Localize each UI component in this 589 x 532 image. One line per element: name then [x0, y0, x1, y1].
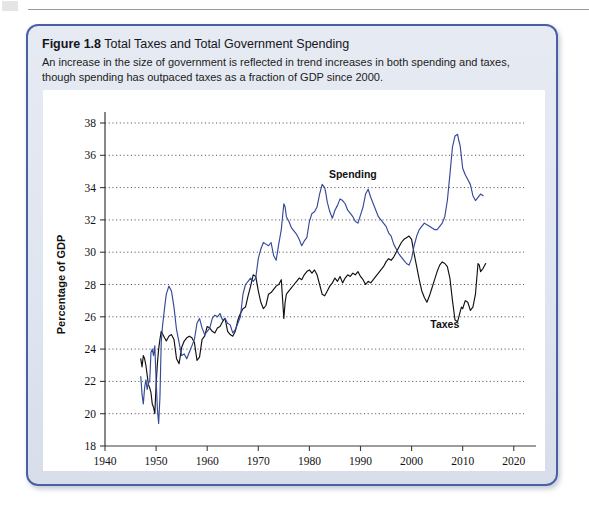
svg-text:28: 28 [85, 279, 97, 291]
figure-title: Figure 1.8 Total Taxes and Total Governm… [42, 36, 542, 52]
svg-text:18: 18 [85, 440, 97, 452]
svg-text:1990: 1990 [349, 455, 372, 467]
svg-text:2020: 2020 [502, 455, 525, 467]
grid-lines [105, 123, 524, 414]
svg-text:30: 30 [85, 246, 97, 258]
svg-text:2000: 2000 [400, 455, 423, 467]
figure-caption-text: An increase in the size of government is… [42, 55, 542, 84]
series-annotations: SpendingTaxes [329, 168, 460, 330]
svg-text:1940: 1940 [94, 455, 117, 467]
y-axis-ticks: 1820222426283032343638 [85, 117, 106, 452]
figure-number: Figure 1.8 [42, 37, 101, 51]
chart-panel: 1820222426283032343638 19401950196019701… [43, 90, 545, 471]
figure-title-text: Total Taxes and Total Government Spendin… [104, 37, 349, 51]
svg-text:36: 36 [85, 149, 97, 161]
figure-caption-block: Figure 1.8 Total Taxes and Total Governm… [42, 36, 542, 84]
svg-text:1970: 1970 [247, 455, 270, 467]
svg-text:2010: 2010 [451, 455, 474, 467]
page-header-rule [28, 9, 589, 10]
x-axis-ticks: 194019501960197019801990200020102020 [94, 446, 526, 467]
spending-series-line [141, 134, 483, 423]
svg-text:22: 22 [85, 375, 97, 387]
svg-text:Taxes: Taxes [430, 318, 459, 330]
svg-text:Spending: Spending [329, 168, 377, 180]
svg-text:26: 26 [85, 311, 97, 323]
svg-text:20: 20 [85, 408, 97, 420]
figure-card: Figure 1.8 Total Taxes and Total Governm… [26, 24, 558, 486]
y-axis-title: Percentage of GDP [55, 235, 67, 335]
svg-text:38: 38 [85, 117, 97, 129]
page-edge-artifact [2, 1, 18, 11]
svg-text:1950: 1950 [145, 455, 168, 467]
svg-text:1980: 1980 [298, 455, 321, 467]
svg-text:34: 34 [85, 182, 97, 194]
svg-text:1960: 1960 [196, 455, 219, 467]
line-chart: 1820222426283032343638 19401950196019701… [43, 90, 545, 471]
svg-text:32: 32 [85, 214, 97, 226]
svg-text:24: 24 [85, 343, 97, 355]
